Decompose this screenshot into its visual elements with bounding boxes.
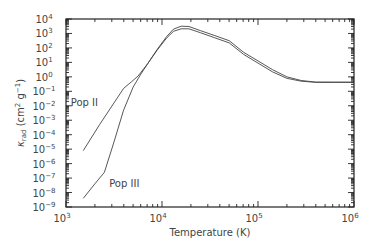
- y-tick-label: 101: [35, 56, 52, 68]
- y-tick-label: 10−7: [32, 172, 55, 184]
- opacity-chart: 10310410510610410310210110010−110−210−31…: [0, 0, 378, 248]
- y-tick-label: 10−6: [32, 158, 56, 170]
- y-tick-label: 104: [35, 13, 53, 25]
- x-tick-label: 105: [245, 212, 262, 224]
- axis-tick-labels: 10310410510610410310210110010−110−210−31…: [32, 13, 359, 224]
- data-curves: [83, 26, 354, 198]
- curve-pop-ii: [83, 26, 354, 150]
- x-tick-label: 104: [149, 212, 167, 224]
- x-tick-label: 103: [53, 212, 70, 224]
- y-tick-label: 100: [35, 71, 52, 83]
- y-tick-label: 10−9: [32, 201, 55, 213]
- curve-annotations: Pop IIPop III: [71, 97, 140, 189]
- y-axis-subscript: rad: [20, 130, 28, 142]
- x-axis-title: Temperature (K): [169, 227, 251, 238]
- y-axis-units: (cm: [15, 107, 26, 126]
- y-tick-label: 10−2: [32, 100, 55, 112]
- y-tick-label: 10−5: [32, 143, 55, 155]
- y-tick-label: 10−8: [32, 187, 55, 199]
- y-tick-label: 10−3: [32, 114, 55, 126]
- y-tick-label: 10−4: [32, 129, 56, 141]
- annotation-pop-ii: Pop II: [71, 97, 98, 108]
- svg-text:κrad (cm2 g−1): κrad (cm2 g−1): [14, 79, 28, 147]
- curve-pop-iii: [83, 29, 354, 199]
- y-tick-label: 102: [35, 42, 52, 54]
- y-axis-title: κrad (cm2 g−1): [14, 79, 28, 147]
- y-tick-label: 103: [35, 27, 52, 39]
- x-tick-label: 106: [341, 212, 359, 224]
- annotation-pop-iii: Pop III: [109, 178, 139, 189]
- y-tick-label: 10−1: [32, 85, 55, 97]
